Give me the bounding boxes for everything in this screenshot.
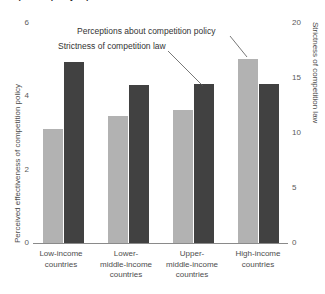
annotation-leader-lines <box>0 0 325 294</box>
chart-container: Competition policy is perceived to be le… <box>0 0 325 294</box>
